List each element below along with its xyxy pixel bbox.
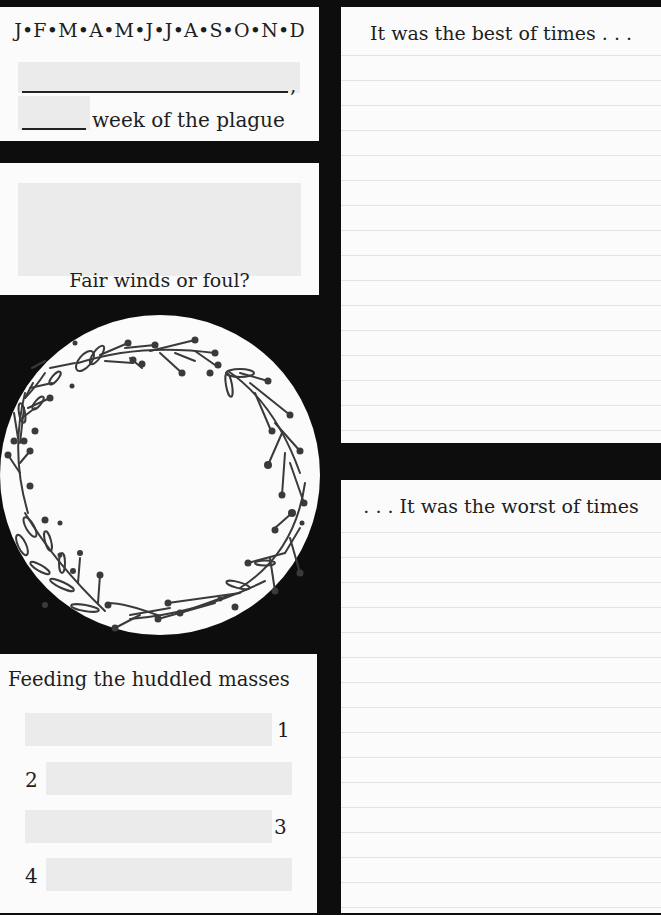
ruled-line [341, 732, 661, 733]
meal-number-4: 4 [25, 864, 38, 888]
week-label: week of the plague [92, 108, 285, 132]
weather-panel: Fair winds or foul? [0, 163, 319, 295]
month-selector[interactable]: J•F•M•A•M•J•J•A•S•O•N•D [0, 19, 319, 41]
ruled-line [341, 557, 661, 558]
ruled-line [341, 682, 661, 683]
ruled-line [341, 305, 661, 306]
weather-field[interactable] [18, 183, 301, 276]
ruled-line [341, 757, 661, 758]
worst-of-times-panel[interactable]: . . . It was the worst of times [341, 480, 661, 913]
ruled-line [341, 405, 661, 406]
ruled-line [341, 582, 661, 583]
ruled-line [341, 280, 661, 281]
ruled-line [341, 105, 661, 106]
best-of-times-heading: It was the best of times . . . [341, 22, 661, 44]
ruled-line [341, 857, 661, 858]
meal-field-4[interactable] [46, 858, 292, 891]
ruled-line [341, 380, 661, 381]
date-panel: J•F•M•A•M•J•J•A•S•O•N•D , week of the pl… [0, 7, 319, 141]
worst-of-times-heading: . . . It was the worst of times [341, 495, 661, 517]
meal-field-2[interactable] [46, 762, 292, 795]
date-comma: , [290, 73, 296, 97]
weather-label: Fair winds or foul? [0, 269, 319, 291]
ruled-line [341, 907, 661, 908]
meal-field-1[interactable] [25, 713, 272, 746]
date-underline [22, 91, 288, 93]
ruled-line [341, 807, 661, 808]
ruled-line [341, 782, 661, 783]
ruled-line [341, 607, 661, 608]
ruled-line [341, 632, 661, 633]
ruled-line [341, 180, 661, 181]
ruled-line [341, 657, 661, 658]
ruled-line [341, 532, 661, 533]
week-underline [22, 128, 86, 130]
ruled-line [341, 130, 661, 131]
meal-number-2: 2 [25, 768, 38, 792]
ruled-line [341, 55, 661, 56]
floral-wreath-icon[interactable] [0, 313, 322, 636]
week-number-field[interactable] [18, 96, 90, 130]
date-field[interactable] [18, 62, 300, 93]
meals-panel: Feeding the huddled masses 1 2 3 4 [0, 654, 317, 913]
ruled-line [341, 230, 661, 231]
best-of-times-panel[interactable]: It was the best of times . . . [341, 7, 661, 443]
ruled-line [341, 330, 661, 331]
ruled-line [341, 80, 661, 81]
ruled-line [341, 832, 661, 833]
ruled-line [341, 882, 661, 883]
ruled-line [341, 355, 661, 356]
ruled-line [341, 430, 661, 431]
ruled-line [341, 255, 661, 256]
ruled-line [341, 155, 661, 156]
ruled-line [341, 205, 661, 206]
ruled-line [341, 707, 661, 708]
meal-number-3: 3 [274, 815, 287, 839]
meal-field-3[interactable] [25, 810, 272, 843]
meals-title: Feeding the huddled masses [8, 668, 290, 691]
meal-number-1: 1 [277, 718, 290, 742]
